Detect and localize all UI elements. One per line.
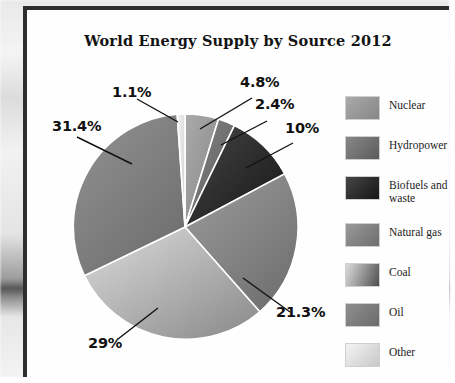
book-page: World Energy Supply by Source 2012 [23,6,449,377]
legend-item-nuclear: Nuclear [345,96,425,120]
legend-swatch-coal [345,263,380,287]
label-nuclear-percent: 4.8% [240,74,279,90]
legend-swatch-nuclear [345,96,380,120]
legend-label-biofuels: Biofuels and waste [389,176,455,204]
legend-item-oil: Oil [345,303,404,327]
label-coal-percent: 29% [88,335,122,351]
legend-swatch-natural-gas [345,223,380,247]
legend-label-hydropower: Hydropower [389,136,447,152]
legend-swatch-hydropower [345,136,380,160]
legend-swatch-oil [345,303,380,327]
legend-label-nuclear: Nuclear [389,96,425,112]
legend-item-biofuels: Biofuels and waste [345,176,455,204]
legend-item-natural-gas: Natural gas [345,223,442,247]
legend-label-other: Other [389,343,415,359]
label-oil-percent: 31.4% [52,118,101,134]
legend-item-coal: Coal [345,263,411,287]
legend-swatch-other [345,343,380,367]
legend-label-coal: Coal [389,263,411,279]
legend-item-other: Other [345,343,415,367]
label-other-percent: 1.1% [112,84,151,100]
label-hydropower-percent: 2.4% [255,96,294,112]
legend-item-hydropower: Hydropower [345,136,447,160]
label-biofuels-percent: 10% [285,120,319,136]
legend-label-oil: Oil [389,303,404,319]
legend-swatch-biofuels [345,176,380,200]
label-natural-gas-percent: 21.3% [276,304,325,320]
legend-label-natural-gas: Natural gas [389,223,442,239]
pie-chart-plot-area: 1.1% 31.4% 4.8% 2.4% 10% 21.3% 29% [27,10,347,383]
page-surface: World Energy Supply by Source 2012 [27,10,449,377]
